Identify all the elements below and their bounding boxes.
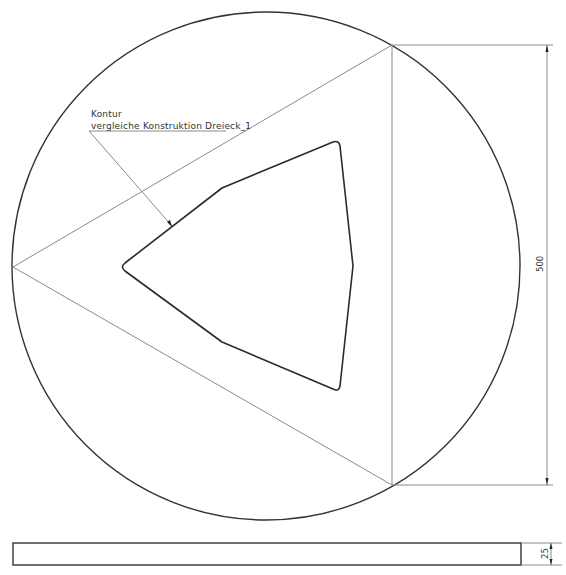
dimension-25: 25	[521, 543, 562, 565]
technical-drawing: Kontur vergleiche Konstruktion Dreieck_1…	[0, 0, 566, 575]
contour-annotation: Kontur vergleiche Konstruktion Dreieck_1	[89, 109, 251, 227]
dim-arrow-top-icon	[546, 45, 549, 52]
dim-arrow-bottom-icon	[546, 478, 549, 485]
annotation-line-1: Kontur	[91, 109, 122, 119]
annotation-line-2: vergleiche Konstruktion Dreieck_1	[91, 121, 251, 131]
side-view-plate	[13, 543, 521, 565]
inner-contour	[123, 142, 354, 391]
dimension-value-500: 500	[535, 256, 545, 272]
dimension-value-25: 25	[540, 548, 550, 559]
outer-circle	[12, 12, 520, 520]
construction-triangle	[13, 45, 392, 485]
dim25-arrow-top-icon	[550, 543, 553, 549]
dimension-500: 500	[392, 45, 553, 485]
leader-line	[89, 131, 172, 226]
